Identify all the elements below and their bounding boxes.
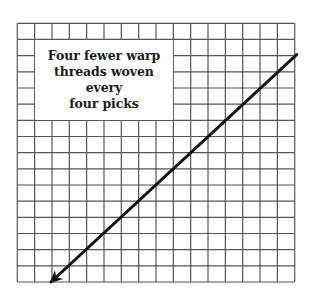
arrow-layer	[0, 0, 310, 303]
diagonal-arrow	[51, 55, 297, 282]
